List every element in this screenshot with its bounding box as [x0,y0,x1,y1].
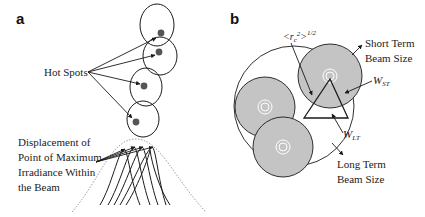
hot-spots-label: Hot Spots [44,66,88,78]
svg-text:Irradiance Within: Irradiance Within [18,166,96,178]
short-term-arrow [352,45,362,55]
panel-b-label: b [230,10,239,27]
hot-spot-1 [158,30,165,37]
short-term-beam-top-right [298,44,362,108]
displacement-label: Displacement of Point of Maximum Irradia… [18,136,102,193]
short-term-beam-bottom [253,117,313,177]
long-term-arrow [332,143,343,155]
svg-text:<rc2>1/2: <rc2>1/2 [283,29,316,44]
svg-text:Point of Maximum: Point of Maximum [18,151,102,163]
svg-text:the Beam: the Beam [18,181,60,193]
short-term-label-line1: Short Term [365,37,415,49]
beam-snapshot-4 [127,101,159,137]
long-term-label-line1: Long Term [337,158,386,170]
w-st-label: WST [373,74,391,88]
panel-a-label: a [16,10,25,27]
beam-wander-label: <rc2>1/2 [283,29,316,44]
w-lt-arrow [332,114,343,133]
hot-spot-2 [156,49,163,56]
beam-snapshot-2 [143,37,177,75]
hot-spot-4 [133,119,140,126]
beam-snapshots [127,4,177,137]
svg-text:Displacement of: Displacement of [18,136,91,148]
short-term-label-line2: Beam Size [365,52,412,64]
hot-spot-3 [141,83,148,90]
w-lt-label: WLT [343,128,361,142]
panel-a: a Hot Spots Displacement of Point of Max [16,4,206,212]
long-term-label-line2: Beam Size [337,173,384,185]
panel-b: b <rc2>1/2 Short Term Beam Size [230,10,415,185]
figure: a Hot Spots Displacement of Point of Max [0,0,425,217]
